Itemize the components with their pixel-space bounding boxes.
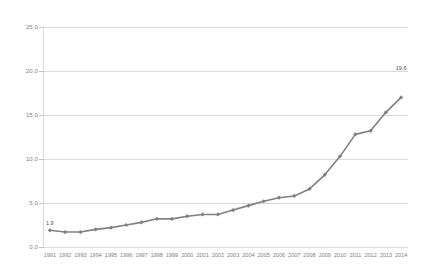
x-axis-tick-label: 2011 <box>349 253 361 259</box>
y-axis-tick-label: 25.0 <box>4 24 38 30</box>
data-point-marker <box>216 212 220 216</box>
data-point-marker <box>200 212 204 216</box>
data-point-marker <box>185 214 189 218</box>
x-axis-tick-label: 1996 <box>120 253 132 259</box>
x-axis-tick-label: 2010 <box>334 253 346 259</box>
data-point-marker <box>246 204 250 208</box>
x-axis-tick-label: 2001 <box>196 253 208 259</box>
x-axis-tick-label: 2007 <box>288 253 300 259</box>
data-point-marker <box>124 223 128 227</box>
x-axis-tick-label: 2013 <box>380 253 392 259</box>
plot-area <box>43 27 408 247</box>
x-axis-tick-label: 1992 <box>59 253 71 259</box>
x-axis-tick-label: 1998 <box>151 253 163 259</box>
x-axis-tick-label: 2008 <box>303 253 315 259</box>
series-line-group <box>43 27 408 247</box>
x-axis-tick-label: 1991 <box>44 253 56 259</box>
y-axis-tick-label: 5.0 <box>4 200 38 206</box>
y-axis-tick-label: 20.0 <box>4 68 38 74</box>
x-axis-tick-label: 1997 <box>135 253 147 259</box>
data-point-marker <box>139 220 143 224</box>
line-chart: 0.05.010.015.020.025.0 19911992199319941… <box>0 0 422 277</box>
data-point-label: 1.9 <box>46 221 54 227</box>
data-point-marker <box>94 227 98 231</box>
data-point-marker <box>155 217 159 221</box>
data-point-marker <box>48 228 52 232</box>
x-axis-tick-label: 2006 <box>273 253 285 259</box>
data-point-marker <box>262 199 266 203</box>
x-axis-tick-label: 2012 <box>364 253 376 259</box>
y-axis-tick-label: 0.0 <box>4 244 38 250</box>
series-line <box>50 97 401 232</box>
x-axis-tick-label: 1999 <box>166 253 178 259</box>
x-axis-tick-label: 1995 <box>105 253 117 259</box>
y-axis-tick-label: 15.0 <box>4 112 38 118</box>
x-axis-tick-label: 2002 <box>212 253 224 259</box>
gridline <box>43 247 408 248</box>
x-axis-tick-label: 2005 <box>258 253 270 259</box>
data-point-marker <box>63 230 67 234</box>
data-point-marker <box>277 196 281 200</box>
x-axis-tick-label: 1993 <box>74 253 86 259</box>
x-axis-tick-label: 2009 <box>319 253 331 259</box>
y-axis-tick-label: 10.0 <box>4 156 38 162</box>
data-point-marker <box>170 217 174 221</box>
x-axis-tick-label: 2003 <box>227 253 239 259</box>
data-point-label: 19.6 <box>396 65 407 71</box>
data-point-marker <box>109 226 113 230</box>
x-axis-tick-label: 1994 <box>90 253 102 259</box>
data-point-marker <box>231 208 235 212</box>
data-point-marker <box>78 230 82 234</box>
x-axis-tick-label: 2014 <box>395 253 407 259</box>
x-axis-tick-label: 2000 <box>181 253 193 259</box>
x-axis-tick-label: 2004 <box>242 253 254 259</box>
